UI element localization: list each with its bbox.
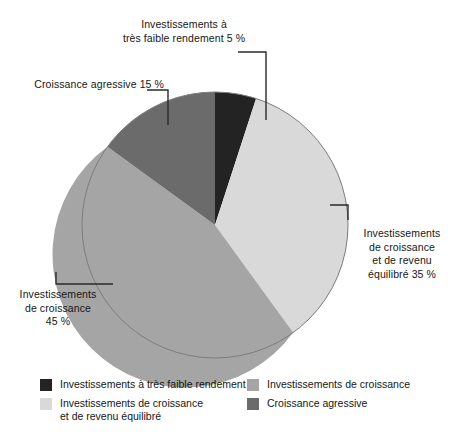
legend-label: Investissements de croissance: [267, 378, 410, 391]
legend-item-growth[interactable]: Investissements de croissance: [247, 378, 440, 391]
legend-item-balanced-growth-income[interactable]: Investissements de croissance et de reve…: [40, 397, 247, 423]
legend-label: Investissements de croissance et de reve…: [60, 397, 203, 423]
chart-legend: Investissements à très faible rendement …: [40, 378, 440, 423]
legend-label: Investissements à très faible rendement: [60, 378, 246, 391]
legend-swatch-icon: [40, 379, 52, 391]
legend-swatch-icon: [247, 398, 259, 410]
legend-label: Croissance agressive: [267, 397, 367, 410]
pie-chart-figure: Investissements à très faible rendement …: [0, 0, 457, 441]
callout-aggressive-growth: Croissance agressive 15 %: [8, 78, 164, 92]
legend-item-aggressive-growth[interactable]: Croissance agressive: [247, 397, 440, 423]
legend-swatch-icon: [40, 398, 52, 410]
legend-swatch-icon: [247, 379, 259, 391]
callout-very-low-yield: Investissements à très faible rendement …: [86, 18, 282, 45]
callout-growth: Investissements de croissance 45 %: [2, 288, 114, 329]
legend-item-very-low-yield[interactable]: Investissements à très faible rendement: [40, 378, 247, 391]
pie-chart-canvas: [0, 0, 457, 441]
callout-balanced-growth-income: Investissements de croissance et de reve…: [352, 227, 452, 281]
